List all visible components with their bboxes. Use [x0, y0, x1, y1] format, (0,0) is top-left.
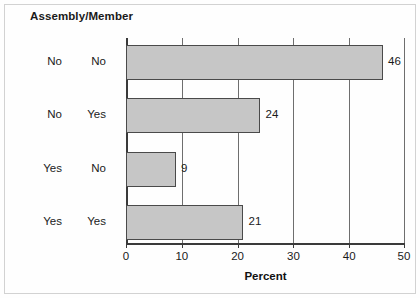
x-tick-40 [349, 243, 350, 248]
bar-row-2 [126, 152, 176, 187]
category-label-assembly-row-3: Yes [30, 215, 62, 227]
group-header-label: Assembly/Member [30, 10, 133, 22]
x-tick-0 [126, 243, 127, 248]
category-label-member-row-0: No [76, 55, 106, 67]
category-label-assembly-row-2: Yes [30, 162, 62, 174]
bar-row-0 [126, 45, 383, 80]
bar-chart-figure: Assembly/Member No No Yes Yes No Yes No … [0, 0, 420, 298]
x-tick-label-0: 0 [123, 250, 129, 262]
x-axis-line [126, 243, 405, 245]
plot-area: 0 10 20 30 40 50 Percent 46 24 9 21 [126, 38, 405, 243]
x-tick-10 [182, 243, 183, 248]
x-tick-label-40: 40 [343, 250, 356, 262]
x-tick-label-20: 20 [231, 250, 244, 262]
x-tick-label-50: 50 [398, 250, 411, 262]
bar-value-row-2: 9 [181, 162, 187, 174]
bar-row-3 [126, 205, 243, 240]
category-label-assembly-row-0: No [30, 55, 62, 67]
bar-value-row-1: 24 [266, 108, 279, 120]
x-tick-30 [293, 243, 294, 248]
x-tick-20 [238, 243, 239, 248]
category-label-member-row-2: No [76, 162, 106, 174]
category-label-assembly-row-1: No [30, 108, 62, 120]
bar-row-1 [126, 98, 260, 133]
gridline-50 [404, 38, 405, 243]
x-tick-50 [404, 243, 405, 248]
x-axis-title: Percent [244, 270, 286, 282]
x-tick-label-10: 10 [175, 250, 188, 262]
bar-value-row-3: 21 [249, 215, 262, 227]
x-tick-label-30: 30 [287, 250, 300, 262]
bar-value-row-0: 46 [388, 55, 401, 67]
category-label-member-row-1: Yes [76, 108, 106, 120]
category-label-member-row-3: Yes [76, 215, 106, 227]
